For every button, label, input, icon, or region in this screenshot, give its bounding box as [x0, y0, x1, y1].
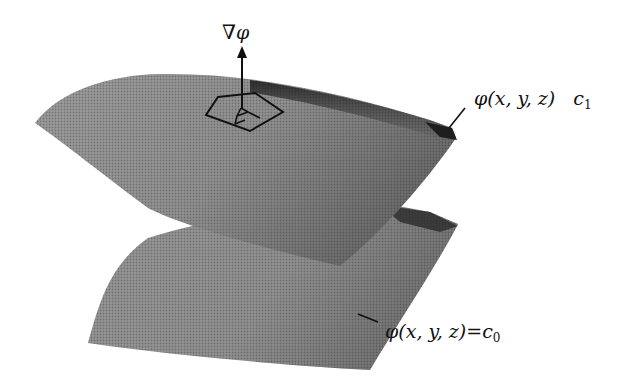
upper-surface-function: φ(x, y, z): [474, 87, 555, 109]
upper-label-leader: [449, 108, 465, 128]
gradient-variable: φ: [236, 21, 249, 43]
upper-surface-constant: c: [573, 87, 584, 109]
level-surfaces-diagram: [0, 0, 617, 391]
upper-surface-subscript: 1: [584, 98, 592, 112]
nabla-symbol: ∇: [222, 20, 236, 44]
lower-surface-subscript: 0: [493, 331, 501, 345]
arrowhead-icon: [237, 46, 247, 58]
lower-surface-label: φ(x, y, z)=c0: [385, 320, 500, 342]
lower-surface-equals: =: [466, 320, 482, 342]
lower-surface-function: φ(x, y, z): [385, 320, 466, 342]
gradient-label: ∇φ: [222, 20, 249, 44]
lower-surface-constant: c: [482, 320, 493, 342]
upper-surface-label: φ(x, y, z)c1: [474, 87, 592, 109]
